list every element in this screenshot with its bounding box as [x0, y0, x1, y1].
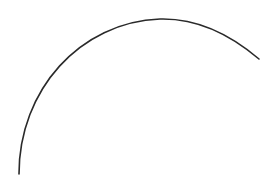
curved-arc: [19, 19, 259, 174]
arc-diagram: [0, 0, 273, 181]
